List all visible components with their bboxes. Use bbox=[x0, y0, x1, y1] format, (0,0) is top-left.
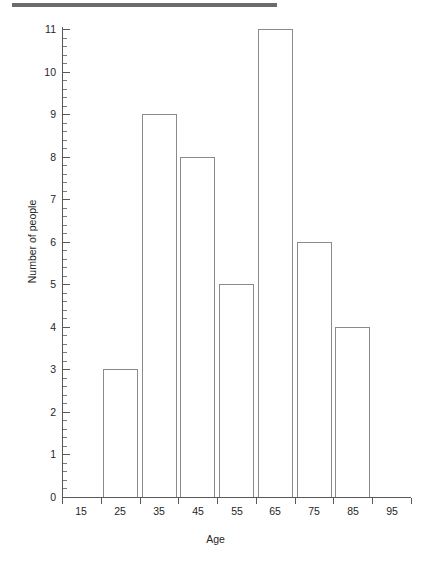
y-minor-tick bbox=[63, 310, 67, 311]
y-minor-tick bbox=[63, 267, 67, 268]
y-minor-tick bbox=[63, 301, 67, 302]
y-minor-tick bbox=[63, 293, 67, 294]
y-tick-3 bbox=[63, 369, 70, 370]
y-tick-label-wrap: 9 bbox=[40, 109, 56, 119]
y-minor-tick bbox=[63, 165, 67, 166]
y-tick-8 bbox=[63, 157, 70, 158]
x-tick-label-65: 65 bbox=[260, 505, 290, 517]
y-tick-label-wrap: 1 bbox=[40, 449, 56, 459]
y-minor-tick bbox=[63, 361, 67, 362]
y-tick-label-2: 2 bbox=[40, 407, 56, 417]
y-tick-4 bbox=[63, 327, 70, 328]
y-minor-tick bbox=[63, 191, 67, 192]
y-minor-tick bbox=[63, 80, 67, 81]
y-tick-10 bbox=[63, 72, 70, 73]
y-tick-label-wrap: 0 bbox=[40, 492, 56, 502]
y-minor-tick bbox=[63, 63, 67, 64]
x-tick-label-25: 25 bbox=[105, 505, 135, 517]
y-minor-tick bbox=[63, 344, 67, 345]
y-minor-tick bbox=[63, 148, 67, 149]
x-tick-70 bbox=[295, 498, 296, 504]
y-minor-tick bbox=[63, 352, 67, 353]
y-tick-label-5: 5 bbox=[40, 279, 56, 289]
bar-55 bbox=[219, 284, 254, 497]
x-tick-90 bbox=[372, 498, 373, 504]
x-tick-50 bbox=[217, 498, 218, 504]
y-minor-tick bbox=[63, 174, 67, 175]
y-tick-label-4: 4 bbox=[40, 322, 56, 332]
y-axis-title: Number of people bbox=[27, 182, 38, 302]
y-minor-tick bbox=[63, 250, 67, 251]
y-minor-tick bbox=[63, 208, 67, 209]
y-minor-tick bbox=[63, 318, 67, 319]
y-tick-label-wrap: 8 bbox=[40, 152, 56, 162]
y-minor-tick bbox=[63, 386, 67, 387]
y-tick-label-1: 1 bbox=[40, 449, 56, 459]
bar-45 bbox=[180, 157, 215, 497]
y-tick-1 bbox=[63, 454, 70, 455]
x-tick-100 bbox=[411, 498, 412, 504]
y-tick-2 bbox=[63, 412, 70, 413]
x-tick-10 bbox=[62, 498, 63, 504]
y-minor-tick bbox=[63, 123, 67, 124]
y-tick-label-7: 7 bbox=[40, 194, 56, 204]
y-minor-tick bbox=[63, 216, 67, 217]
x-tick-label-35: 35 bbox=[144, 505, 174, 517]
x-tick-label-15: 15 bbox=[66, 505, 96, 517]
y-minor-tick bbox=[63, 55, 67, 56]
y-tick-9 bbox=[63, 114, 70, 115]
y-tick-label-8: 8 bbox=[40, 152, 56, 162]
y-minor-tick bbox=[63, 378, 67, 379]
y-minor-tick bbox=[63, 420, 67, 421]
y-minor-tick bbox=[63, 259, 67, 260]
y-minor-tick bbox=[63, 463, 67, 464]
x-tick-80 bbox=[333, 498, 334, 504]
bar-25 bbox=[103, 369, 138, 497]
bar-75 bbox=[297, 242, 332, 497]
y-tick-label-6: 6 bbox=[40, 237, 56, 247]
y-tick-5 bbox=[63, 284, 70, 285]
y-tick-label-11: 11 bbox=[40, 24, 56, 34]
y-tick-0 bbox=[63, 497, 70, 498]
y-minor-tick bbox=[63, 46, 67, 47]
y-minor-tick bbox=[63, 106, 67, 107]
y-minor-tick bbox=[63, 488, 67, 489]
x-tick-label-75: 75 bbox=[299, 505, 329, 517]
y-minor-tick bbox=[63, 429, 67, 430]
y-minor-tick bbox=[63, 395, 67, 396]
y-minor-tick bbox=[63, 403, 67, 404]
x-axis-title: Age bbox=[0, 533, 431, 545]
bar-35 bbox=[142, 114, 177, 497]
x-tick-20 bbox=[101, 498, 102, 504]
x-tick-60 bbox=[256, 498, 257, 504]
histogram-figure: 01234567891011 152535455565758595 Number… bbox=[0, 0, 431, 561]
y-minor-tick bbox=[63, 471, 67, 472]
y-minor-tick bbox=[63, 38, 67, 39]
y-tick-label-0: 0 bbox=[40, 492, 56, 502]
y-tick-label-wrap: 11 bbox=[40, 24, 56, 34]
y-minor-tick bbox=[63, 446, 67, 447]
y-tick-label-3: 3 bbox=[40, 364, 56, 374]
y-tick-label-wrap: 10 bbox=[40, 67, 56, 77]
y-minor-tick bbox=[63, 480, 67, 481]
y-minor-tick bbox=[63, 233, 67, 234]
y-minor-tick bbox=[63, 131, 67, 132]
x-axis-line bbox=[62, 497, 411, 498]
x-tick-30 bbox=[140, 498, 141, 504]
y-tick-label-10: 10 bbox=[40, 67, 56, 77]
bar-85 bbox=[335, 327, 370, 497]
x-tick-40 bbox=[178, 498, 179, 504]
y-minor-tick bbox=[63, 335, 67, 336]
y-tick-6 bbox=[63, 242, 70, 243]
y-tick-11 bbox=[63, 29, 70, 30]
y-tick-label-wrap: 5 bbox=[40, 279, 56, 289]
y-minor-tick bbox=[63, 276, 67, 277]
y-tick-label-wrap: 6 bbox=[40, 237, 56, 247]
y-tick-label-wrap: 7 bbox=[40, 194, 56, 204]
y-minor-tick bbox=[63, 97, 67, 98]
y-tick-label-wrap: 2 bbox=[40, 407, 56, 417]
x-tick-label-55: 55 bbox=[222, 505, 252, 517]
y-tick-label-wrap: 4 bbox=[40, 322, 56, 332]
y-tick-7 bbox=[63, 199, 70, 200]
x-tick-label-95: 95 bbox=[377, 505, 407, 517]
